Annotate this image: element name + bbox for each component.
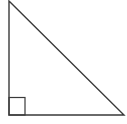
triangle [9,1,124,115]
right-triangle-diagram [0,0,127,124]
right-angle-marker [9,98,25,116]
